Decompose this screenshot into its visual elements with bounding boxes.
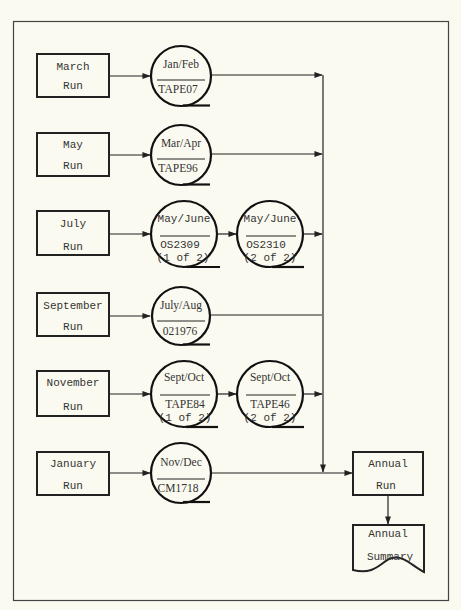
run-box-line2: Run (63, 160, 83, 172)
tape-label: CM1718 (158, 482, 199, 494)
annual-run-line1: Annual (368, 458, 408, 470)
tape-label: TAPE84 (165, 398, 205, 410)
tape-label: TAPE07 (158, 83, 198, 95)
tape-label: OS2309 (160, 239, 200, 251)
run-box-line2: Run (63, 401, 83, 413)
tape-reel: July/Aug 021976 (152, 287, 210, 345)
tape-reel-icon (151, 443, 211, 503)
run-box-line1: September (43, 300, 102, 312)
tape-label: OS2310 (246, 239, 286, 251)
tape-period: Sept/Oct (164, 371, 205, 384)
tape-sub: (2 of 2) (244, 252, 297, 264)
tape-label: 021976 (163, 325, 198, 337)
run-box-line1: January (50, 458, 97, 470)
row-november: November Run Sept/Oct TAPE84 (1 of 2) Se… (37, 361, 322, 427)
tape-label: TAPE96 (158, 162, 198, 174)
tape-reel: Sept/Oct TAPE46 (2 of 2) (237, 361, 304, 427)
run-box-line1: November (47, 377, 100, 389)
run-box-line1: March (56, 61, 89, 73)
tape-period: July/Aug (160, 299, 202, 312)
tape-period: Jan/Feb (163, 58, 199, 70)
tape-sub: (1 of 2) (157, 252, 210, 264)
annual-summary-line1: Annual (368, 528, 408, 540)
run-box-line1: July (60, 218, 87, 230)
tape-reel: May/June OS2310 (2 of 2) (237, 201, 304, 267)
row-january: January Run Nov/Dec CM1718 (37, 443, 352, 503)
tape-reel-icon (151, 46, 211, 106)
tape-sub: (1 of 2) (159, 412, 212, 424)
tape-period: Mar/Apr (161, 137, 201, 150)
tape-period: Nov/Dec (160, 456, 202, 468)
run-box-line2: Run (63, 480, 83, 492)
row-may: May Run Mar/Apr TAPE96 (37, 125, 322, 185)
run-box-line2: Run (63, 321, 83, 333)
tape-flow-diagram: March Run Jan/Feb TAPE07 May Run Mar/Apr… (0, 0, 461, 610)
row-march: March Run Jan/Feb TAPE07 (37, 46, 322, 106)
tape-reel: Mar/Apr TAPE96 (151, 125, 211, 185)
tape-sub: (2 of 2) (244, 412, 297, 424)
run-box-line2: Run (63, 241, 83, 253)
tape-label: TAPE46 (250, 398, 290, 410)
tape-reel: Nov/Dec CM1718 (151, 443, 211, 503)
row-september: September Run July/Aug 021976 (37, 287, 322, 345)
tape-reel-icon (151, 125, 211, 185)
annual-run-line2: Run (376, 480, 396, 492)
tape-period: May/June (244, 213, 297, 225)
tape-reel: May/June OS2309 (1 of 2) (151, 201, 220, 267)
tape-period: May/June (158, 213, 211, 225)
tape-reel: Sept/Oct TAPE84 (1 of 2) (151, 361, 218, 427)
row-july: July Run May/June OS2309 (1 of 2) May/Ju… (37, 201, 322, 267)
tape-period: Sept/Oct (250, 371, 291, 384)
tape-reel: Jan/Feb TAPE07 (151, 46, 211, 106)
annual-summary-line2: Summary (367, 551, 414, 563)
run-box-line2: Run (63, 80, 83, 92)
annual-summary: Annual Summary (353, 525, 424, 572)
annual-run: Annual Run (353, 452, 423, 495)
run-box-line1: May (63, 139, 83, 151)
